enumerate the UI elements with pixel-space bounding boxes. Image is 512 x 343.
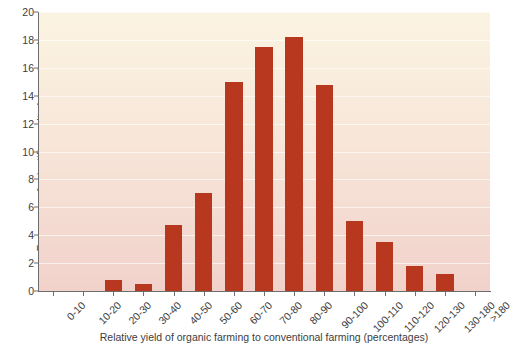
x-axis-tick-label: 30-40 bbox=[156, 299, 183, 326]
x-axis-tick-mark bbox=[475, 292, 476, 296]
x-axis-tick-label: 80-90 bbox=[307, 299, 334, 326]
x-axis-tick-mark bbox=[143, 292, 144, 296]
x-axis-tick-label: 60-70 bbox=[247, 299, 274, 326]
x-axis-tick-label: 90-100 bbox=[339, 299, 371, 331]
bar bbox=[225, 82, 242, 291]
bar-series bbox=[38, 12, 490, 291]
y-axis-tick-label: 10 bbox=[22, 146, 34, 158]
bar bbox=[195, 193, 212, 291]
x-axis-tick-label: 70-80 bbox=[277, 299, 304, 326]
bar bbox=[406, 266, 423, 291]
bar bbox=[255, 47, 272, 291]
x-axis-tick-mark bbox=[113, 292, 114, 296]
x-axis-tick-mark bbox=[174, 292, 175, 296]
x-axis-tick-mark bbox=[53, 292, 54, 296]
x-axis-tick-mark bbox=[324, 292, 325, 296]
bar bbox=[376, 242, 393, 291]
y-axis-tick-labels: 02468101214161820 bbox=[16, 0, 34, 339]
bar bbox=[165, 225, 182, 291]
y-axis-tick-label: 16 bbox=[22, 62, 34, 74]
x-axis-title: Relative yield of organic farming to con… bbox=[38, 331, 490, 343]
x-axis-tick-mark bbox=[445, 292, 446, 296]
x-axis-tick-label: 0-10 bbox=[64, 299, 87, 322]
x-axis-tick-mark bbox=[204, 292, 205, 296]
x-axis-tick-label: 110-120 bbox=[401, 299, 436, 334]
x-axis-tick-label: 40-50 bbox=[186, 299, 213, 326]
y-axis-tick-label: 20 bbox=[22, 6, 34, 18]
x-axis-tick-mark bbox=[264, 292, 265, 296]
x-axis-tick-mark bbox=[385, 292, 386, 296]
x-axis-tick-mark bbox=[415, 292, 416, 296]
x-axis-tick-label: 50-60 bbox=[217, 299, 244, 326]
bar bbox=[135, 284, 152, 291]
x-axis-tick-mark bbox=[354, 292, 355, 296]
bar bbox=[436, 274, 453, 291]
x-axis-tick-label: 100-110 bbox=[370, 299, 405, 334]
bar bbox=[346, 221, 363, 291]
x-axis-tick-label: 10-20 bbox=[96, 299, 123, 326]
y-axis-tick-label: 14 bbox=[22, 90, 34, 102]
bar bbox=[316, 85, 333, 291]
y-axis-tick-label: 12 bbox=[22, 118, 34, 130]
x-axis-tick-mark bbox=[294, 292, 295, 296]
x-axis-tick-mark bbox=[234, 292, 235, 296]
y-axis-tick-label: 18 bbox=[22, 34, 34, 46]
x-axis-tick-label: 120-130 bbox=[431, 299, 467, 335]
x-axis-tick-label: 20-30 bbox=[126, 299, 153, 326]
x-axis-tick-mark bbox=[83, 292, 84, 296]
bar bbox=[285, 37, 302, 291]
bar bbox=[105, 280, 122, 291]
